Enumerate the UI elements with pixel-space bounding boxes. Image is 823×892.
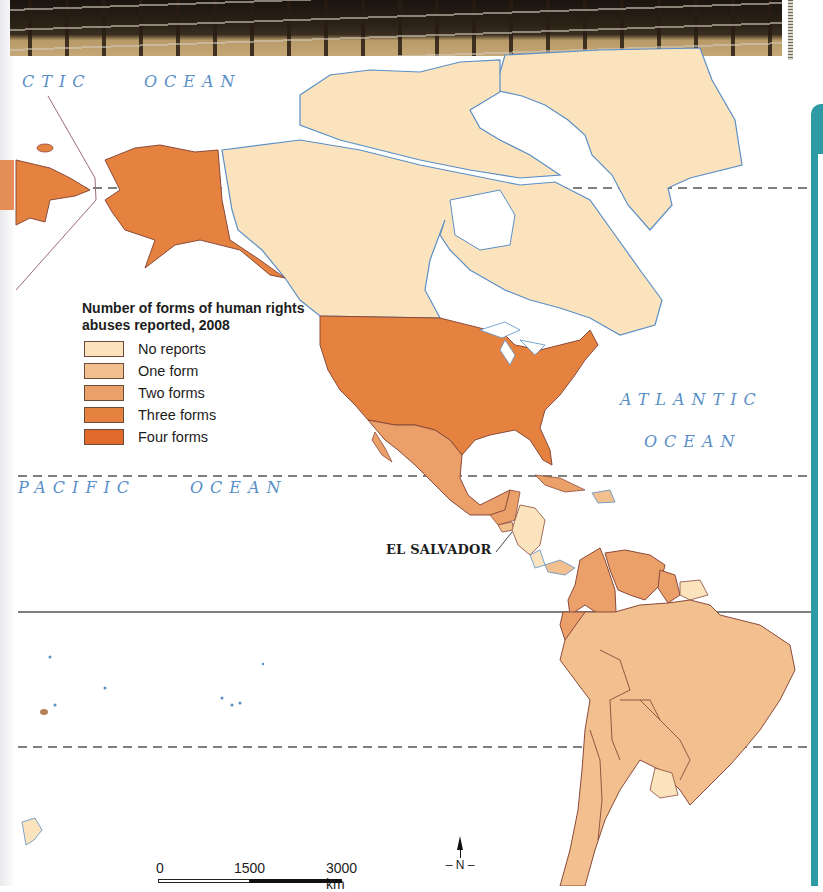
north-arrow: – N – — [440, 836, 480, 886]
region-panama — [545, 560, 575, 575]
scale-tick-3000: 3000 km — [326, 860, 366, 892]
legend-title: Number of forms of human rights abuses r… — [82, 300, 312, 334]
region-new-zealand — [22, 818, 42, 845]
legend-swatch — [84, 429, 124, 445]
legend-swatch — [84, 407, 124, 423]
legend-swatch — [84, 341, 124, 357]
pacific-islands — [49, 656, 265, 707]
region-suriname-guiana — [680, 580, 708, 600]
legend-item-no-reports: No reports — [82, 338, 312, 360]
region-guyana — [658, 570, 680, 603]
ocean-label-pacific-1: PACIFIC — [18, 478, 136, 497]
scale-tick-1500: 1500 — [234, 860, 265, 876]
legend-label: Three forms — [138, 407, 216, 423]
legend-item-three-forms: Three forms — [82, 404, 312, 426]
legend-swatch — [84, 385, 124, 401]
callout-line — [496, 532, 512, 552]
legend-label: Four forms — [138, 429, 208, 445]
legend-label: No reports — [138, 341, 206, 357]
legend-item-four-forms: Four forms — [82, 426, 312, 448]
region-brazil-andes — [560, 600, 795, 886]
legend-label: Two forms — [138, 385, 205, 401]
legend-swatch — [84, 363, 124, 379]
scale-segment-white — [158, 879, 250, 883]
region-cuba — [535, 475, 585, 492]
ocean-label-atlantic-1: ATLANTIC — [620, 390, 763, 409]
legend-item-two-forms: Two forms — [82, 382, 312, 404]
region-hispaniola — [592, 490, 615, 503]
legend-label: One form — [138, 363, 198, 379]
region-russia — [16, 160, 90, 225]
region-usa — [320, 316, 598, 465]
ocean-label-arctic-1: CTIC — [22, 72, 91, 91]
scale-segment-black — [250, 879, 342, 883]
scale-tick-0: 0 — [156, 860, 164, 876]
north-arrow-stem — [460, 850, 461, 858]
north-arrow-icon — [457, 836, 463, 850]
map-legend: Number of forms of human rights abuses r… — [82, 300, 312, 448]
ocean-label-arctic-2: OCEAN — [144, 72, 242, 91]
ocean-label-pacific-2: OCEAN — [190, 478, 288, 497]
region-honduras-nicaragua — [512, 505, 545, 555]
scale-bar: 0 1500 3000 km — [156, 860, 366, 886]
legend-item-one-form: One form — [82, 360, 312, 382]
ocean-label-atlantic-2: OCEAN — [644, 432, 742, 451]
label-el-salvador: EL SALVADOR — [386, 542, 491, 557]
